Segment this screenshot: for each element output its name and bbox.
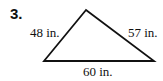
side-label-bottom: 60 in. bbox=[83, 64, 113, 80]
side-label-right: 57 in. bbox=[128, 25, 158, 41]
side-label-left: 48 in. bbox=[30, 25, 60, 41]
